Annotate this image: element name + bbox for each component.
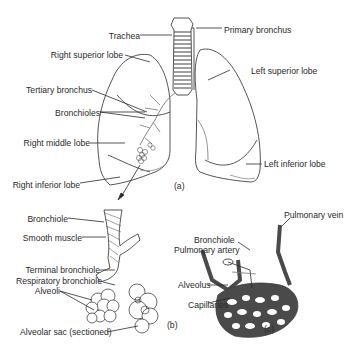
label-right-superior-lobe: Right superior lobe xyxy=(22,50,123,60)
panel-label-c: (c) xyxy=(264,324,274,334)
label-pulmonary-vein: Pulmonary vein xyxy=(284,210,343,220)
label-terminal-bronchiole: Terminal bronchiole xyxy=(0,265,100,275)
label-bronchioles: Bronchioles xyxy=(40,108,100,118)
label-alveoli: Alveoli xyxy=(10,286,60,296)
label-trachea: Trachea xyxy=(80,31,140,41)
label-tertiary-bronchus: Tertiary bronchus xyxy=(10,85,92,95)
right-lung-drawing xyxy=(98,54,175,185)
label-alveolus: Alveolus xyxy=(178,280,210,290)
label-left-superior-lobe: Left superior lobe xyxy=(251,66,317,76)
panel-label-a: (a) xyxy=(174,181,185,191)
label-capillaries: Capillaries xyxy=(188,300,228,310)
label-smooth-muscle: Smooth muscle xyxy=(10,233,82,243)
label-alveolar-sac: Alveolar sac (sectioned) xyxy=(20,327,112,337)
label-bronchiole-c: Bronchiole xyxy=(194,235,235,245)
label-bronchiole-b: Bronchiole xyxy=(10,214,68,224)
trachea-drawing xyxy=(171,18,193,95)
label-right-inferior-lobe: Right inferior lobe xyxy=(0,180,80,190)
label-respiratory-bronchiole: Respiratory bronchiole xyxy=(0,276,102,286)
panel-label-b: (b) xyxy=(167,320,178,330)
label-right-middle-lobe: Right middle lobe xyxy=(10,138,90,148)
label-primary-bronchus: Primary bronchus xyxy=(224,25,291,35)
label-pulmonary-artery: Pulmonary artery xyxy=(174,245,239,255)
label-left-inferior-lobe: Left inferior lobe xyxy=(264,159,326,169)
